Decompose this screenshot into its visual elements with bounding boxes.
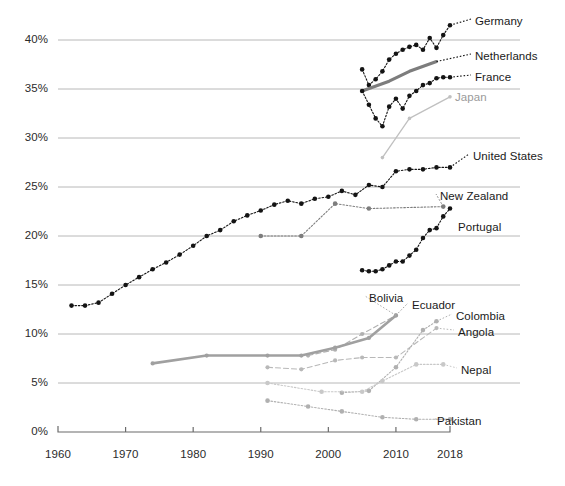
chart-container: 0%5%10%15%20%25%30%35%40% 19601970198019… <box>0 0 565 486</box>
series-line <box>153 315 396 363</box>
y-tick-label: 15% <box>14 278 48 290</box>
data-point <box>380 69 385 74</box>
series-line <box>362 209 450 272</box>
data-point <box>394 97 399 102</box>
data-point <box>421 48 426 53</box>
series-line <box>362 62 436 91</box>
series-pakistan <box>265 398 452 421</box>
data-point <box>151 361 155 365</box>
data-point <box>427 228 432 233</box>
data-point <box>204 234 209 239</box>
data-point <box>407 45 412 50</box>
data-point <box>400 259 405 264</box>
data-point <box>407 253 412 258</box>
data-point <box>367 206 372 211</box>
data-point <box>258 234 263 239</box>
data-point <box>218 228 223 233</box>
series-netherlands <box>362 62 436 91</box>
data-point <box>265 381 270 386</box>
data-point <box>205 353 209 357</box>
label-leader-line <box>450 19 471 25</box>
data-point <box>137 275 142 280</box>
x-tick-marks-group <box>126 427 396 432</box>
y-tick-label: 5% <box>14 376 48 388</box>
data-point <box>258 208 263 213</box>
data-point <box>394 355 398 359</box>
x-tick-label: 1960 <box>34 448 82 460</box>
gridlines-group <box>58 40 520 383</box>
data-point <box>353 193 358 198</box>
data-point <box>448 95 452 99</box>
data-point <box>427 81 432 86</box>
series-label-united-states: United States <box>473 150 543 162</box>
data-point <box>394 169 399 174</box>
data-point <box>380 267 385 272</box>
y-tick-label: 35% <box>14 82 48 94</box>
data-point <box>245 213 250 218</box>
data-point <box>427 36 432 41</box>
data-point <box>373 116 378 121</box>
data-point <box>367 269 372 274</box>
data-point <box>407 94 412 99</box>
data-point <box>191 244 196 249</box>
data-point <box>285 198 290 203</box>
data-point <box>380 415 385 420</box>
series-new-zealand <box>258 201 445 238</box>
data-point <box>381 156 385 160</box>
data-point <box>407 167 412 172</box>
series-label-germany: Germany <box>475 15 523 27</box>
data-point <box>441 33 446 38</box>
axis-lines-group <box>58 426 450 432</box>
data-point <box>387 104 392 109</box>
data-point <box>299 367 303 371</box>
series-label-colombia: Colombia <box>456 310 505 322</box>
series-nepal <box>265 362 445 394</box>
data-point <box>272 202 277 207</box>
data-point <box>164 260 169 265</box>
data-point <box>265 365 269 369</box>
y-tick-label: 10% <box>14 327 48 339</box>
series-label-bolivia: Bolivia <box>369 292 403 304</box>
data-point <box>394 365 399 370</box>
data-point <box>441 75 446 80</box>
series-label-pakistan: Pakistan <box>437 415 482 427</box>
data-point <box>306 404 311 409</box>
data-point <box>83 303 88 308</box>
series-portugal <box>360 206 452 273</box>
data-point <box>313 196 318 201</box>
data-point <box>387 263 392 268</box>
data-point <box>421 167 426 172</box>
data-point <box>299 234 304 239</box>
series-angola <box>265 326 438 371</box>
data-point <box>394 259 399 264</box>
data-point <box>373 77 378 82</box>
data-point <box>360 268 365 273</box>
series-label-angola: Angola <box>458 326 494 338</box>
data-point <box>414 417 419 422</box>
data-point <box>414 362 419 367</box>
series-label-new-zealand: New Zealand <box>440 190 508 202</box>
label-leader-line <box>396 303 408 315</box>
data-point <box>150 267 155 272</box>
label-leader-line <box>450 75 471 77</box>
x-tick-label: 1990 <box>237 448 285 460</box>
data-point <box>367 183 372 188</box>
data-point <box>421 83 426 88</box>
y-tick-label: 0% <box>14 425 48 437</box>
data-point <box>96 300 101 305</box>
y-tick-label: 40% <box>14 33 48 45</box>
series-group <box>69 19 471 422</box>
data-point <box>380 185 385 190</box>
data-point <box>373 269 378 274</box>
series-label-france: France <box>475 71 511 83</box>
data-point <box>340 189 345 194</box>
data-point <box>434 319 439 324</box>
data-point <box>299 201 304 206</box>
data-point <box>414 247 419 252</box>
data-point <box>434 165 439 170</box>
data-point <box>340 391 345 396</box>
y-tick-label: 25% <box>14 180 48 192</box>
data-point <box>394 51 399 56</box>
y-tick-label: 30% <box>14 131 48 143</box>
data-point <box>319 390 324 395</box>
